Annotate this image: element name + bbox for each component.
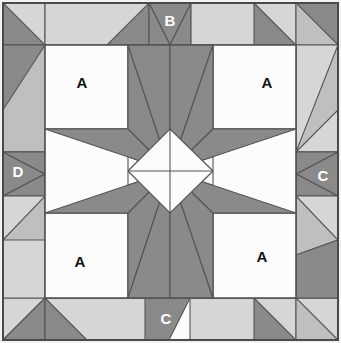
- quilt-block-diagram: A A A A B C C D: [0, 0, 341, 343]
- quilt-svg: A A A A B C C D: [0, 0, 341, 343]
- patch-label-a-top-left: A: [77, 74, 88, 91]
- patch-label-c-bottom-center: C: [161, 310, 172, 327]
- square-a-bottom-right: [213, 213, 296, 298]
- patch-label-a-top-right: A: [262, 74, 273, 91]
- square-a-bottom-left: [45, 213, 128, 298]
- square-a-top-right: [213, 45, 296, 129]
- patch-label-a-bottom-right: A: [257, 248, 268, 265]
- patch-label-a-bottom-left: A: [75, 253, 86, 270]
- patch-label-b-top-center: B: [165, 12, 176, 29]
- patch-label-d-left-center: D: [13, 163, 24, 180]
- patch-label-c-right-center: C: [318, 167, 329, 184]
